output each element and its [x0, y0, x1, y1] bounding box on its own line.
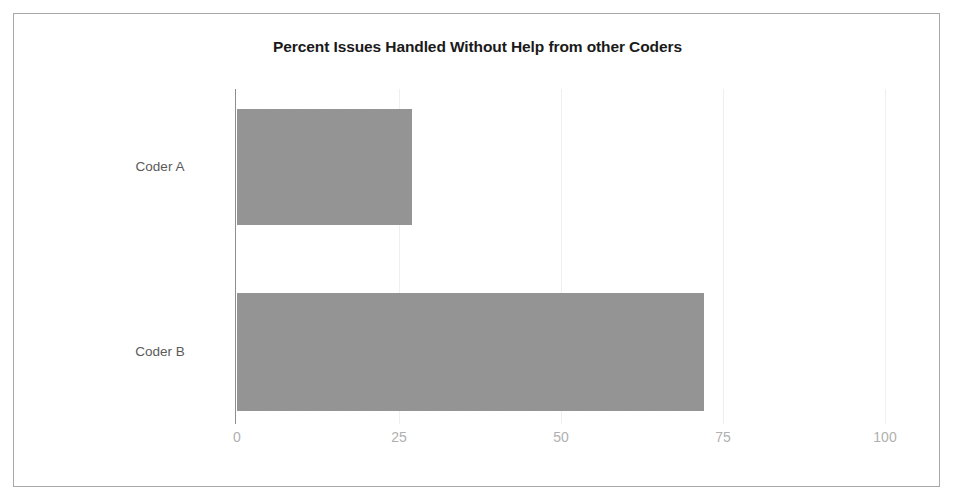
category-axis-labels: Coder A Coder B [85, 89, 225, 424]
chart-screenshot: Percent Issues Handled Without Help from… [0, 0, 953, 500]
xtick-label-100: 100 [873, 429, 896, 445]
gridline-100 [885, 89, 886, 424]
chart-title: Percent Issues Handled Without Help from… [14, 38, 941, 56]
y-axis-line [235, 89, 236, 424]
category-label-coder-b: Coder B [95, 344, 225, 359]
bar-coder-a [237, 109, 412, 225]
xtick-label-25: 25 [391, 429, 407, 445]
xtick-label-75: 75 [715, 429, 731, 445]
gridline-75 [723, 89, 724, 424]
xtick-label-0: 0 [233, 429, 241, 445]
chart-frame: Percent Issues Handled Without Help from… [13, 13, 940, 487]
category-label-coder-a: Coder A [95, 159, 225, 174]
bar-coder-b [237, 293, 704, 411]
xtick-label-50: 50 [553, 429, 569, 445]
plot-area: Coder A Coder B 0 25 50 75 100 [235, 89, 883, 424]
